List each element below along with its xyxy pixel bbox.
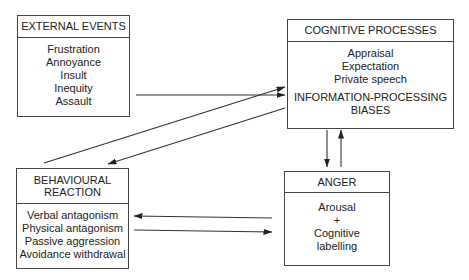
box-body: Verbal antagonism Physical antagonism Pa… bbox=[17, 204, 128, 261]
list-item: Appraisal bbox=[288, 47, 453, 60]
box-external-events: EXTERNAL EVENTS Frustration Annoyance In… bbox=[17, 15, 130, 117]
box-title: BEHAVIOURAL REACTION bbox=[17, 169, 128, 204]
list-item: labelling bbox=[285, 240, 389, 253]
arrow-behavioural-to-anger bbox=[134, 230, 272, 232]
list-item: Avoidance withdrawal bbox=[17, 248, 128, 261]
list-item: Expectation bbox=[288, 60, 453, 73]
subheading: BIASES bbox=[288, 104, 453, 117]
list-item: Arousal bbox=[285, 201, 389, 214]
arrow-cognitive-to-behavioural bbox=[108, 108, 285, 164]
list-item: Cognitive bbox=[285, 227, 389, 240]
arrow-anger-to-behavioural bbox=[134, 216, 272, 218]
box-anger: ANGER Arousal + Cognitive labelling bbox=[284, 171, 390, 266]
box-behavioural-reaction: BEHAVIOURAL REACTION Verbal antagonism P… bbox=[16, 168, 129, 269]
box-title: COGNITIVE PROCESSES bbox=[288, 20, 453, 42]
box-title: ANGER bbox=[285, 172, 389, 193]
list-item: Private speech bbox=[288, 73, 453, 86]
box-body: Appraisal Expectation Private speech INF… bbox=[288, 42, 453, 117]
box-title: EXTERNAL EVENTS bbox=[18, 16, 129, 38]
subheading: INFORMATION-PROCESSING bbox=[288, 91, 453, 104]
box-title-line: BEHAVIOURAL bbox=[34, 174, 111, 187]
box-body: Arousal + Cognitive labelling bbox=[285, 193, 389, 253]
list-item: + bbox=[285, 214, 389, 227]
list-item: Physical antagonism bbox=[17, 222, 128, 235]
box-body: Frustration Annoyance Insult Inequity As… bbox=[18, 38, 129, 108]
box-cognitive-processes: COGNITIVE PROCESSES Appraisal Expectatio… bbox=[287, 19, 454, 129]
list-item: Assault bbox=[18, 95, 129, 108]
list-item: Frustration bbox=[18, 43, 129, 56]
list-item: Insult bbox=[18, 69, 129, 82]
box-title-line: REACTION bbox=[44, 186, 101, 199]
list-item: Passive aggression bbox=[17, 235, 128, 248]
list-item: Verbal antagonism bbox=[17, 209, 128, 222]
list-item: Annoyance bbox=[18, 56, 129, 69]
list-item: Inequity bbox=[18, 82, 129, 95]
